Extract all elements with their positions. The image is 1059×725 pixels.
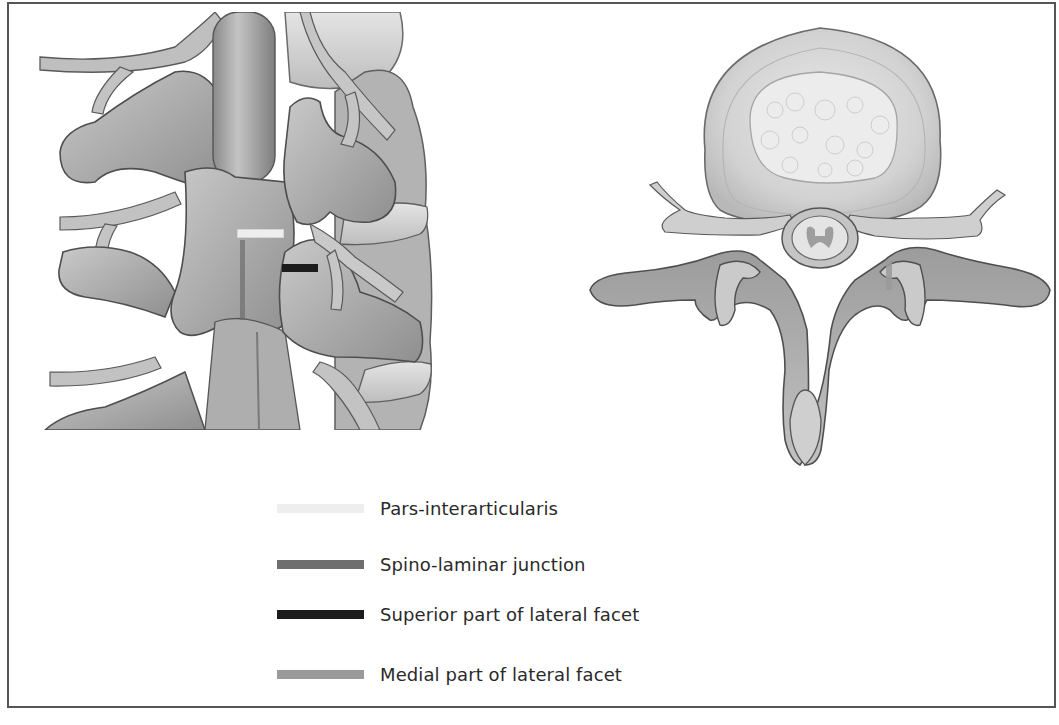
swatch-medial-lateral-facet <box>277 670 364 679</box>
marker-superior-lateral-facet <box>282 264 318 272</box>
legend-item-pars-interarticularis: Pars-interarticularis <box>277 495 558 521</box>
posterior-spine-illustration <box>35 12 445 430</box>
axial-vertebra-illustration <box>585 10 1055 470</box>
marker-pars-interarticularis <box>237 229 284 238</box>
legend-item-medial-lateral-facet: Medial part of lateral facet <box>277 661 622 687</box>
legend-label: Pars-interarticularis <box>380 498 558 519</box>
swatch-pars-interarticularis <box>277 504 364 513</box>
marker-medial-lateral-facet <box>886 260 892 290</box>
swatch-superior-lateral-facet <box>277 610 364 619</box>
swatch-spino-laminar-junction <box>277 560 364 569</box>
legend-label: Superior part of lateral facet <box>380 604 639 625</box>
legend-label: Medial part of lateral facet <box>380 664 622 685</box>
legend-label: Spino-laminar junction <box>380 554 586 575</box>
legend-item-superior-lateral-facet: Superior part of lateral facet <box>277 601 639 627</box>
marker-spino-laminar-junction <box>240 240 245 320</box>
legend-item-spino-laminar-junction: Spino-laminar junction <box>277 551 586 577</box>
